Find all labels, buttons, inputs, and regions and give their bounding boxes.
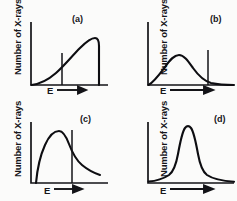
panel-d: Number of X-rays (d) E xyxy=(118,100,236,200)
plot-area-b xyxy=(118,0,236,100)
x-axis-arrow-c xyxy=(54,186,82,193)
panel-a: Number of X-rays (a) E xyxy=(0,0,118,100)
plot-area-c xyxy=(0,100,118,200)
panel-c: Number of X-rays (c) E xyxy=(0,100,118,200)
x-axis-arrow-b xyxy=(170,87,213,94)
x-axis-arrow-d xyxy=(170,186,213,193)
spectrum-curve-c xyxy=(36,131,100,183)
plot-area-a xyxy=(0,0,118,100)
xray-spectra-figure: Number of X-rays (a) E Number of X-rays … xyxy=(0,0,237,201)
panel-b: Number of X-rays (b) E xyxy=(118,0,236,100)
spectrum-curve-b xyxy=(149,55,235,85)
axes-b xyxy=(148,22,234,85)
spectrum-curve-a xyxy=(32,38,100,85)
spectrum-curve-d xyxy=(149,126,235,182)
axes-d xyxy=(148,122,234,183)
plot-area-d xyxy=(118,100,236,200)
axes-a xyxy=(31,22,108,85)
x-axis-arrow-a xyxy=(57,87,86,94)
